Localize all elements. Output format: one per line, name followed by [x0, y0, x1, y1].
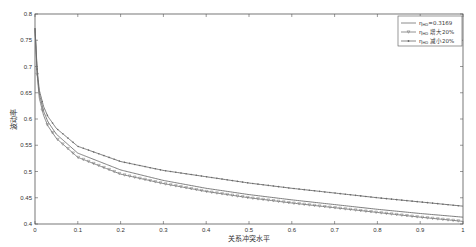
y-axis-label: 波动率	[9, 109, 18, 130]
x-tick-label: 0.3	[159, 227, 168, 233]
series-marker-dot	[370, 196, 372, 198]
series-marker-dot	[416, 201, 418, 203]
series-marker-dot	[380, 197, 382, 199]
series-marker-dot	[257, 183, 259, 185]
series-marker-dot	[201, 175, 203, 177]
series-marker-dot	[411, 200, 413, 202]
series-marker-dot	[278, 186, 280, 188]
series-marker-dot	[252, 183, 254, 185]
series-marker-dot	[134, 164, 136, 166]
legend-suffix: =0.3169	[428, 20, 452, 26]
series-marker-dot	[119, 160, 121, 162]
series-marker-dot	[355, 195, 357, 197]
series-marker-dot	[242, 181, 244, 183]
series-marker-dot	[247, 182, 249, 184]
y-tick-label: 0.75	[20, 37, 32, 43]
series-marker-dot	[185, 173, 187, 175]
series-marker-dot	[452, 204, 454, 206]
legend-marker-dot	[408, 40, 410, 42]
x-tick-label: 0.1	[74, 227, 83, 233]
series-marker-dot	[170, 171, 172, 173]
series-marker-dot	[139, 165, 141, 167]
series-marker-dot	[129, 163, 131, 165]
series-marker-dot	[273, 185, 275, 187]
y-tick-label: 0.4	[24, 221, 33, 227]
x-axis-label: 关系冲突水平	[228, 234, 270, 243]
x-tick-label: 0.5	[245, 227, 254, 233]
series-marker-dot	[175, 171, 177, 173]
series-marker-dot	[196, 175, 198, 177]
series-marker-dot	[375, 197, 377, 199]
series-marker-dot	[144, 166, 146, 168]
y-tick-label: 0.5	[24, 169, 33, 175]
x-tick-label: 0.9	[416, 227, 425, 233]
series-marker-dot	[427, 202, 429, 204]
series-marker-dot	[319, 191, 321, 193]
series-marker-dot	[437, 203, 439, 205]
y-tick-label: 0.55	[20, 142, 32, 148]
series-marker-dot	[124, 162, 126, 164]
series-line-1	[35, 28, 463, 217]
series-line-2	[35, 28, 463, 221]
series-marker-dot	[396, 199, 398, 201]
series-marker-dot	[334, 192, 336, 194]
series-marker-dot	[67, 137, 69, 139]
series-marker-dot	[108, 157, 110, 159]
series-marker-dot	[41, 101, 43, 103]
series-marker-dot	[422, 201, 424, 203]
y-tick-label: 0.8	[24, 11, 33, 17]
y-tick-label: 0.45	[20, 195, 32, 201]
series-marker-dot	[62, 133, 64, 135]
series-marker-dot	[83, 147, 85, 149]
series-marker-dot	[365, 196, 367, 198]
x-tick-label: 1	[461, 227, 465, 233]
series-line-3	[35, 28, 463, 206]
legend: ηHD=0.3169ηHD 增大20%ηHD 减小20%	[398, 16, 462, 46]
series-marker-dot	[226, 179, 228, 181]
series-marker-dot	[324, 191, 326, 193]
series-marker-dot	[457, 205, 459, 207]
series-marker-dot	[298, 188, 300, 190]
series-marker-dot	[165, 170, 167, 172]
legend-suffix: 增大20%	[428, 28, 454, 36]
series-marker-dot	[190, 174, 192, 176]
series-marker-dot	[283, 187, 285, 189]
series-marker-dot	[180, 172, 182, 174]
series-marker-dot	[345, 193, 347, 195]
series-marker-dot	[267, 185, 269, 187]
series-marker-dot	[160, 169, 162, 171]
series-marker-dot	[391, 198, 393, 200]
series-marker-dot	[98, 153, 100, 155]
x-tick-label: 0.7	[330, 227, 339, 233]
series-marker-dot	[314, 190, 316, 192]
series-marker-dot	[329, 192, 331, 194]
series-marker-dot	[221, 178, 223, 180]
series-marker-dot	[262, 184, 264, 186]
series-marker-dot	[103, 155, 105, 157]
series-marker-dot	[442, 203, 444, 205]
series-marker-dot	[154, 168, 156, 170]
series-marker-dot	[113, 158, 115, 160]
series-marker-dot	[232, 180, 234, 182]
series-marker-dot	[406, 200, 408, 202]
series-marker-dot	[88, 149, 90, 151]
x-tick-label: 0.6	[288, 227, 297, 233]
series-marker-dot	[77, 146, 79, 148]
series-marker-dot	[237, 181, 239, 183]
x-tick-label: 0.2	[116, 227, 125, 233]
line-chart: 00.10.20.30.40.50.60.70.80.910.40.450.50…	[0, 0, 476, 247]
x-tick-label: 0.4	[202, 227, 211, 233]
series-marker-dot	[309, 189, 311, 191]
y-tick-label: 0.7	[24, 64, 33, 70]
series-lines	[35, 28, 463, 222]
series-marker-dot	[36, 68, 38, 70]
series-marker-dot	[57, 129, 59, 131]
series-marker-dot	[293, 188, 295, 190]
legend-suffix: 减小20%	[428, 37, 454, 45]
series-marker-dot	[401, 199, 403, 201]
x-tick-label: 0.8	[373, 227, 382, 233]
series-marker-dot	[47, 115, 49, 117]
series-marker-dot	[447, 204, 449, 206]
series-marker-dot	[52, 122, 54, 124]
y-tick-label: 0.65	[20, 90, 32, 96]
